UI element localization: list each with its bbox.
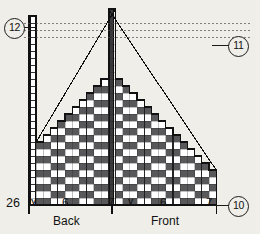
chart-root: VV 26 6 7 6 7 Back Front 12 11 10 bbox=[0, 0, 260, 234]
chart-selvedge-column bbox=[31, 16, 35, 205]
callout-12[interactable]: 12 bbox=[4, 18, 25, 39]
callout-11[interactable]: 11 bbox=[228, 36, 249, 57]
section-label-front: Front bbox=[151, 214, 179, 228]
axis-left-label: 26 bbox=[6, 196, 20, 210]
section-label-back: Back bbox=[53, 214, 80, 228]
axis-tick-label-3: 7 bbox=[206, 196, 212, 208]
svg-text:V: V bbox=[128, 197, 134, 206]
callout-10-leader bbox=[212, 205, 229, 206]
knitting-chart-plot: VV bbox=[0, 0, 260, 234]
chart-baseline bbox=[29, 203, 216, 214]
callout-10[interactable]: 10 bbox=[228, 196, 249, 217]
chart-guide-lines bbox=[24, 23, 252, 37]
axis-tick-label-2: 6 bbox=[160, 196, 166, 208]
axis-tick-label-0: 6 bbox=[62, 196, 68, 208]
svg-text:V: V bbox=[31, 197, 37, 206]
axis-tick-label-1: 7 bbox=[108, 196, 114, 208]
callout-11-leader bbox=[212, 45, 229, 46]
